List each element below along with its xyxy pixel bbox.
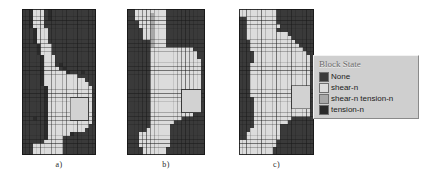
block-state-figure: a) b) c) Block State Noneshear-nshear-n … — [0, 0, 432, 183]
panel-c-label: c) — [219, 160, 334, 169]
panel-b — [127, 9, 205, 155]
legend-items: Noneshear-nshear-n tension-ntension-n — [319, 71, 414, 115]
legend-item: tension-n — [319, 104, 414, 115]
legend-swatch-icon — [319, 94, 329, 104]
panel-b-label: b) — [107, 160, 225, 169]
legend-item: shear-n tension-n — [319, 93, 414, 104]
legend-item: None — [319, 71, 414, 82]
legend-item-label: shear-n — [331, 83, 358, 93]
legend-title: Block State — [319, 59, 414, 70]
legend-swatch-icon — [319, 83, 329, 93]
legend-item-label: None — [331, 72, 350, 82]
panel-b-grid — [127, 9, 205, 155]
panel-a-label: a) — [2, 160, 116, 169]
legend-swatch-icon — [319, 72, 329, 82]
legend-swatch-icon — [319, 105, 329, 115]
legend-item-label: tension-n — [331, 105, 364, 115]
legend-box: Block State Noneshear-nshear-n tension-n… — [313, 55, 419, 119]
panel-c-grid — [239, 9, 314, 155]
panel-a — [22, 9, 96, 155]
legend-item: shear-n — [319, 82, 414, 93]
panel-c — [239, 9, 314, 155]
panel-a-grid — [22, 9, 96, 155]
legend-item-label: shear-n tension-n — [331, 94, 393, 104]
